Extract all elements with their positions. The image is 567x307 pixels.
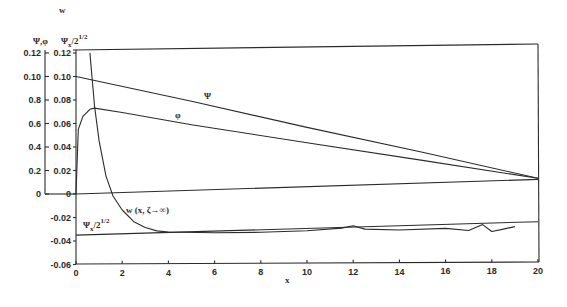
y-axis-title-psix: Ψx/21/2 — [61, 33, 88, 49]
psix-symbol: Ψ — [61, 36, 68, 46]
psix-curve-superscript: 1/2 — [101, 217, 110, 225]
x-tick-label: 20 — [533, 266, 543, 276]
inner-y-ticks: 0.120.100.080.060.040.020-0.02-0.04-0.06 — [50, 48, 76, 270]
zero-line-curve — [76, 179, 538, 194]
x-tick-label: 10 — [302, 267, 312, 277]
inner-y-tick-label: 0.06 — [53, 119, 71, 129]
x-axis-title: x — [285, 275, 290, 285]
outer-y-tick-label: 0.4 — [28, 142, 41, 152]
inner-y-tick-label: -0.02 — [50, 213, 71, 223]
x-tick-label: 6 — [212, 267, 217, 277]
inner-y-tick-label: -0.04 — [50, 236, 71, 246]
w-curve-label: w (x, ζ→∞) — [126, 205, 169, 215]
y-axis-title-psi-phi: Ψ,φ — [33, 36, 48, 46]
outer-y-tick-label: 0.6 — [28, 119, 41, 129]
y-axis-title-w: w — [59, 5, 66, 15]
inner-y-tick-label: 0.12 — [53, 48, 71, 58]
x-tick-label: 16 — [441, 266, 451, 276]
outer-y-tick-label: 0.2 — [28, 166, 41, 176]
plot-right-border — [538, 44, 539, 262]
psi-curve-label: Ψ — [204, 91, 211, 101]
outer-y-tick-label: 0 — [36, 189, 41, 199]
outer-y-tick-label: 0.12 — [23, 48, 41, 58]
x-tick-label: 0 — [73, 268, 78, 278]
x-2-1-2-curve — [76, 222, 538, 235]
series-curve — [76, 77, 538, 179]
x-tick-label: 12 — [348, 267, 358, 277]
plot-top-border — [73, 44, 538, 50]
chart: 0.120.100.80.60.40.20 0.120.100.080.060.… — [0, 0, 567, 307]
outer-y-tick-label: 0.8 — [28, 95, 41, 105]
inner-y-tick-label: 0.08 — [53, 95, 71, 105]
psix-curve-label: Ψx/21/2 — [83, 217, 110, 233]
x-tick-label: 14 — [394, 267, 404, 277]
x-tick-label: 2 — [120, 268, 125, 278]
x-tick-label: 4 — [166, 268, 171, 278]
inner-y-tick-label: 0.10 — [53, 72, 71, 82]
psix-superscript: 1/2 — [79, 33, 88, 41]
x-tick-label: 8 — [258, 267, 263, 277]
outer-y-tick-label: 0.10 — [23, 72, 41, 82]
inner-y-tick-label: -0.06 — [50, 260, 71, 270]
x-tick-label: 18 — [487, 266, 497, 276]
inner-y-tick-label: 0.02 — [53, 166, 71, 176]
psix-curve-symbol: Ψ — [83, 220, 90, 230]
inner-y-tick-label: 0.04 — [53, 142, 71, 152]
phi-curve-label: φ — [175, 110, 181, 120]
inner-y-tick-label: 0 — [66, 189, 71, 199]
